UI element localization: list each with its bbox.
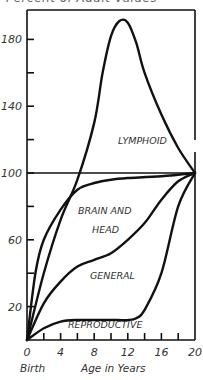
y-tick-label: 140 xyxy=(1,100,22,113)
x-axis-title: Age in Years xyxy=(80,362,146,374)
y-tick-labels: 2060100140180 xyxy=(1,33,22,313)
x-origin-label-birth: Birth xyxy=(20,362,45,374)
y-tick-label: 100 xyxy=(1,167,22,180)
x-tick-label: 16 xyxy=(154,346,168,359)
y-tick-label: 60 xyxy=(8,234,22,247)
curve-reproductive xyxy=(27,173,195,340)
x-tick-label: 8 xyxy=(91,346,98,359)
y-tick-label: 20 xyxy=(8,301,22,314)
x-tick-label: 4 xyxy=(57,346,64,359)
y-tick-label: 180 xyxy=(1,33,22,46)
label-reproductive: REPRODUCTIVE xyxy=(68,319,142,330)
x-tick-label: 20 xyxy=(188,346,202,359)
label-brain-and-head-line2: HEAD xyxy=(92,224,119,235)
curve-brain-and-head xyxy=(27,173,195,340)
growth-curves-chart: LYMPHOID BRAIN AND HEAD GENERAL REPRODUC… xyxy=(0,0,203,380)
x-tick-labels: 048121620 xyxy=(24,346,203,359)
label-brain-and-head-line1: BRAIN AND xyxy=(78,205,131,216)
curves xyxy=(27,20,195,340)
x-tick-label: 0 xyxy=(24,346,31,359)
curve-general xyxy=(27,173,195,340)
label-lymphoid: LYMPHOID xyxy=(118,135,167,146)
label-general: GENERAL xyxy=(90,270,135,281)
x-tick-label: 12 xyxy=(121,346,135,359)
